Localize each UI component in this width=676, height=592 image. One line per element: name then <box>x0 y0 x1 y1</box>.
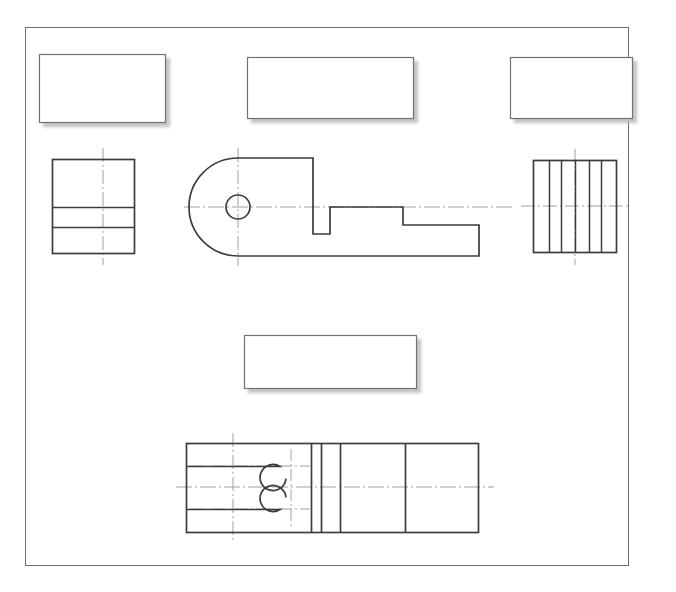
dimension-box-middle-center[interactable] <box>245 336 417 389</box>
drawing-root <box>0 0 676 592</box>
top-strip-caption <box>36 0 636 8</box>
dimension-box-top-left[interactable] <box>40 55 166 123</box>
cad-canvas <box>0 0 676 592</box>
dimension-box-top-center[interactable] <box>248 58 414 119</box>
dimension-box-top-right[interactable] <box>511 58 633 119</box>
